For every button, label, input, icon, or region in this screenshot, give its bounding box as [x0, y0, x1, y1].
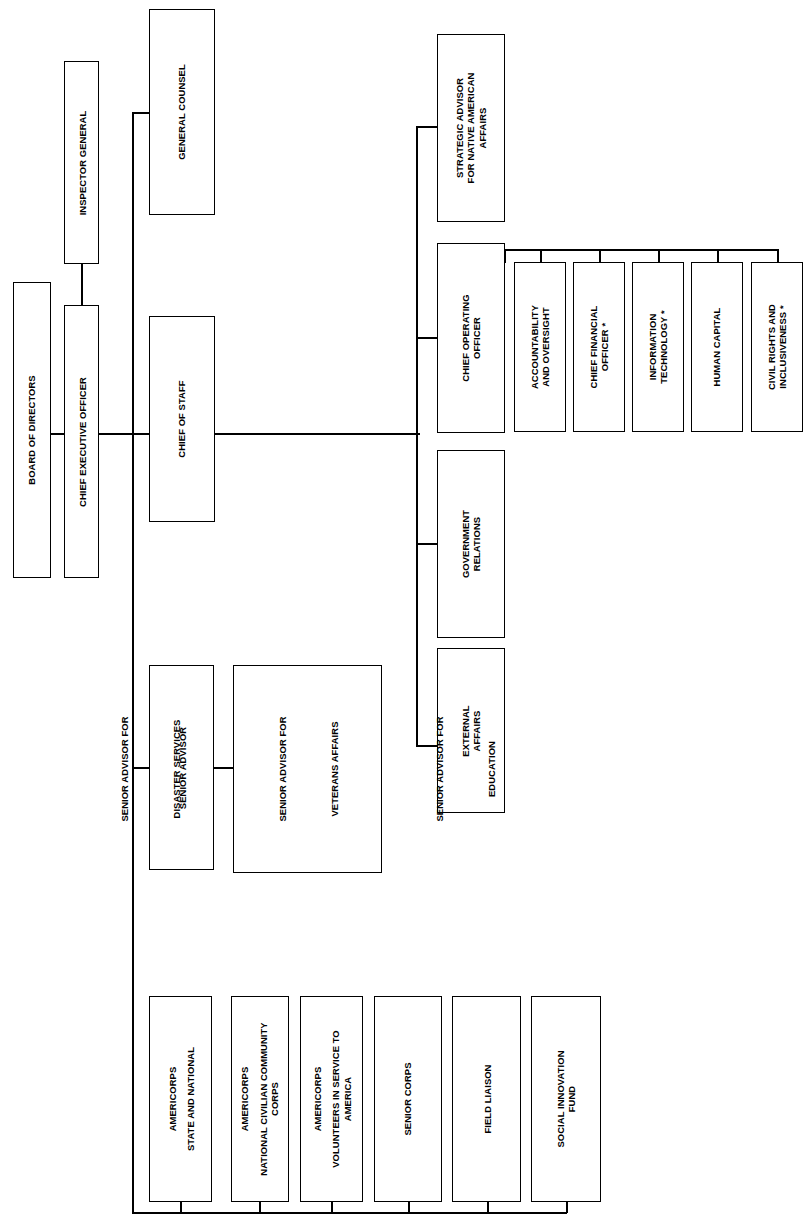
connector-trunk-to-coo	[416, 337, 438, 339]
node-label: GENERAL COUNSEL	[176, 64, 187, 160]
connector-stub-americorps-vista	[331, 1202, 333, 1213]
node-label-line2: AND OVERSIGHT	[540, 307, 551, 386]
connector-stub-human-capital	[717, 249, 719, 263]
connector-stub-americorps-nccc	[259, 1202, 261, 1213]
node-senior-corps[interactable]: SENIOR CORPS	[374, 996, 442, 1202]
node-label: FIELD LIAISON	[481, 1065, 492, 1134]
connector-ceo-to-inspector-general	[81, 263, 83, 307]
connector-stub-information-technology	[658, 249, 660, 263]
connector-left-trunk	[132, 112, 134, 1213]
node-label-line2: OFFICER	[471, 317, 482, 359]
connector-stub-cfo	[599, 249, 601, 263]
node-label: CIVIL RIGHTS AND	[766, 304, 777, 390]
node-government-relations[interactable]: GOVERNMENT RELATIONS	[437, 450, 505, 638]
connector-stub-civil-rights	[777, 249, 779, 263]
node-label: SOCIAL INNOVATION	[555, 1051, 566, 1148]
node-civil-rights-and-inclusiveness[interactable]: CIVIL RIGHTS AND INCLUSIVENESS *	[751, 262, 803, 432]
node-field-liaison[interactable]: FIELD LIAISON	[452, 996, 521, 1202]
node-accountability-and-oversight[interactable]: ACCOUNTABILITY AND OVERSIGHT	[514, 262, 566, 432]
node-chief-executive-officer[interactable]: CHIEF EXECUTIVE OFFICER	[64, 305, 99, 578]
node-label: STRATEGIC ADVISOR	[454, 78, 465, 178]
node-label: GOVERNMENT	[460, 510, 471, 578]
list-item-senior-advisor-veterans-affairs: SENIOR ADVISOR FOR VETERANS AFFAIRS	[236, 716, 380, 821]
node-label: CHIEF OF STAFF	[176, 380, 187, 457]
node-label-line2: NATIONAL CIVILIAN COMMUNITY	[258, 1022, 269, 1175]
connector-coo-bus	[504, 249, 778, 251]
node-general-counsel[interactable]: GENERAL COUNSEL	[149, 9, 215, 215]
node-label: HUMAN CAPITAL	[711, 308, 722, 387]
node-label: AMERICORPS	[166, 1067, 177, 1132]
connector-programs-bus	[132, 1212, 567, 1214]
node-label-line2: EDUCATION	[485, 716, 497, 821]
node-label: SENIOR ADVISOR FOR	[276, 716, 288, 821]
node-label-line3: CORPS	[269, 1082, 280, 1116]
node-social-innovation-fund[interactable]: SOCIAL INNOVATION FUND	[531, 996, 601, 1202]
connector-stub-social-innovation-fund	[566, 1202, 568, 1213]
node-chief-operating-officer[interactable]: CHIEF OPERATING OFFICER	[437, 243, 505, 433]
node-label: ACCOUNTABILITY	[529, 305, 540, 389]
connector-trunk-to-government-relations	[416, 543, 438, 545]
node-label: CHIEF OPERATING	[460, 294, 471, 381]
node-label-line2: STATE AND NATIONAL	[184, 1047, 195, 1151]
node-label: SENIOR CORPS	[402, 1062, 413, 1135]
node-americorps-state-and-national[interactable]: AMERICORPS STATE AND NATIONAL	[149, 996, 212, 1202]
node-senior-advisor-specialties[interactable]: SENIOR ADVISOR FOR DISASTER SERVICES SEN…	[233, 665, 382, 873]
list-item-senior-advisor-disaster-services: SENIOR ADVISOR FOR DISASTER SERVICES	[78, 716, 222, 821]
org-chart-canvas: BOARD OF DIRECTORS CHIEF EXECUTIVE OFFIC…	[0, 0, 804, 1228]
connector-trunk-to-strategic-advisor	[416, 126, 438, 128]
node-information-technology[interactable]: INFORMATION TECHNOLOGY *	[632, 262, 684, 432]
node-label: BOARD OF DIRECTORS	[26, 375, 37, 484]
node-label-line3: AMERICA	[341, 1077, 352, 1121]
node-label-line2: FOR NATIVE AMERICAN	[465, 73, 476, 184]
connector-stub-americorps-state	[180, 1202, 182, 1213]
connector-stub-senior-corps	[408, 1202, 410, 1213]
connector-ceo-main-spine	[98, 433, 420, 435]
node-label: INSPECTOR GENERAL	[76, 110, 87, 215]
node-label-line2: VETERANS AFFAIRS	[328, 716, 340, 821]
node-label: AMERICORPS	[311, 1067, 322, 1132]
node-label: SENIOR ADVISOR FOR	[118, 716, 130, 821]
node-strategic-advisor-native-american-affairs[interactable]: STRATEGIC ADVISOR FOR NATIVE AMERICAN AF…	[437, 34, 505, 222]
connector-right-trunk	[416, 126, 418, 746]
node-label-line3: AFFAIRS	[477, 108, 488, 149]
connector-stub-accountability	[540, 249, 542, 263]
connector-trunk-to-general-counsel	[132, 112, 150, 114]
node-human-capital[interactable]: HUMAN CAPITAL	[691, 262, 743, 432]
node-label-line2: VOLUNTEERS IN SERVICE TO	[329, 1030, 340, 1168]
node-americorps-vista[interactable]: AMERICORPS VOLUNTEERS IN SERVICE TO AMER…	[300, 996, 363, 1202]
node-chief-financial-officer[interactable]: CHIEF FINANCIAL OFFICER *	[573, 262, 625, 432]
node-label: CHIEF EXECUTIVE OFFICER	[76, 377, 87, 507]
connector-stub-field-liaison	[487, 1202, 489, 1213]
node-inspector-general[interactable]: INSPECTOR GENERAL	[64, 61, 99, 264]
node-label-line2: INCLUSIVENESS *	[777, 305, 788, 388]
node-label: INFORMATION	[647, 314, 658, 381]
node-label-line2: OFFICER *	[599, 323, 610, 371]
node-label-line2: FUND	[566, 1086, 577, 1112]
node-label: CHIEF FINANCIAL	[588, 306, 599, 389]
node-label-line2: TECHNOLOGY *	[658, 310, 669, 383]
node-label: AMERICORPS	[239, 1067, 250, 1132]
node-board-of-directors[interactable]: BOARD OF DIRECTORS	[13, 282, 51, 578]
node-label: SENIOR ADVISOR FOR	[433, 716, 445, 821]
node-label-line2: RELATIONS	[471, 517, 482, 571]
node-chief-of-staff[interactable]: CHIEF OF STAFF	[149, 316, 215, 522]
node-label-line2: DISASTER SERVICES	[170, 716, 182, 821]
node-americorps-nccc[interactable]: AMERICORPS NATIONAL CIVILIAN COMMUNITY C…	[231, 996, 289, 1202]
list-item-senior-advisor-education: SENIOR ADVISOR FOR EDUCATION	[393, 716, 537, 821]
